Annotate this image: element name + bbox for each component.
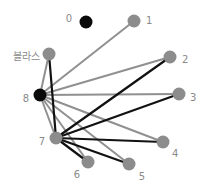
node-7[interactable] [50,132,63,145]
graph-svg: 01블라스2837465 [0,0,207,190]
nodes-layer [34,15,186,171]
edge-8-3 [40,94,179,95]
edge-8-2 [40,57,170,95]
edge-7-3 [56,94,179,138]
node-5[interactable] [123,158,136,171]
node-label-5: 5 [139,171,145,182]
node-4[interactable] [157,136,170,149]
node-6[interactable] [82,156,95,169]
node-blas[interactable] [43,48,56,61]
edge-7-blas [49,54,56,138]
node-8[interactable] [34,89,47,102]
node-0[interactable] [80,16,93,29]
node-1[interactable] [128,15,141,28]
node-3[interactable] [173,88,186,101]
node-label-8: 8 [23,93,29,104]
node-label-blas: 블라스 [13,51,40,62]
node-label-4: 4 [172,148,178,159]
node-label-2: 2 [182,54,188,65]
node-label-1: 1 [146,15,152,26]
node-label-6: 6 [74,169,80,180]
node-2[interactable] [164,51,177,64]
network-diagram: 01블라스2837465 [0,0,207,190]
node-label-7: 7 [39,136,45,147]
node-label-0: 0 [66,13,72,24]
node-label-3: 3 [190,92,196,103]
